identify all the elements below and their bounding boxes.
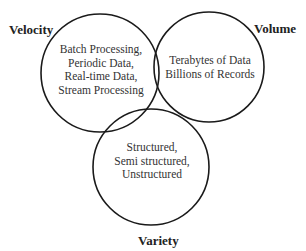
volume-item: Billions of Records (160, 68, 260, 82)
variety-item: Semi structured, (110, 155, 194, 169)
velocity-item: Real-time Data, (58, 70, 144, 84)
velocity-item: Stream Processing (58, 84, 144, 98)
velocity-item: Periodic Data, (58, 57, 144, 71)
velocity-label: Velocity (9, 22, 53, 38)
variety-item: Unstructured (110, 168, 194, 182)
volume-label: Volume (254, 21, 296, 37)
velocity-items: Batch Processing, Periodic Data, Real-ti… (58, 43, 144, 97)
volume-item: Terabytes of Data (160, 54, 260, 68)
velocity-item: Batch Processing, (58, 43, 144, 57)
variety-item: Structured, (110, 141, 194, 155)
volume-items: Terabytes of Data Billions of Records (160, 54, 260, 81)
variety-items: Structured, Semi structured, Unstructure… (110, 141, 194, 182)
variety-label: Variety (138, 233, 179, 249)
